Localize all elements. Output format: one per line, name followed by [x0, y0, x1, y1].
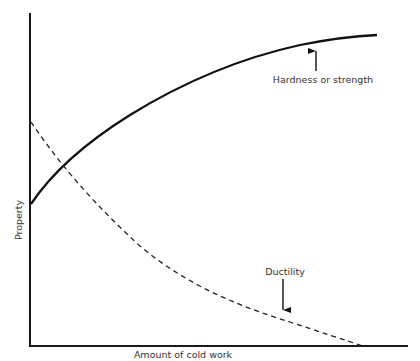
hardness-curve	[31, 35, 377, 204]
hardness-label: Hardness or strength	[273, 74, 373, 85]
x-axis-label: Amount of cold work	[134, 349, 233, 360]
ductility-label: Ductility	[265, 266, 305, 277]
y-axis-label: Property	[13, 200, 24, 241]
chart: Hardness or strength Ductility Amount of…	[0, 0, 420, 361]
ductility-curve	[31, 122, 363, 346]
